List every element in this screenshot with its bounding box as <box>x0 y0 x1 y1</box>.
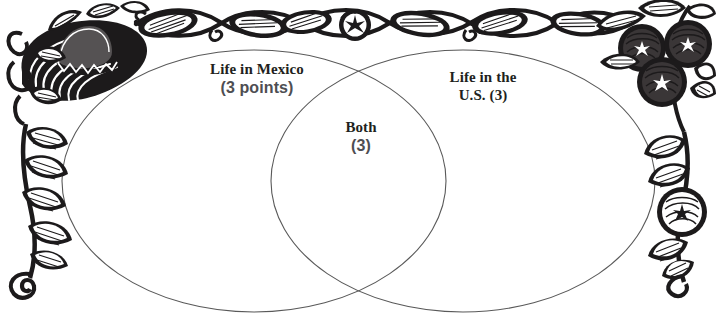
venn-intersection-label-points: (3) <box>305 136 417 156</box>
venn-right-label: Life in the U.S. (3) <box>390 68 576 105</box>
venn-right-label-title: Life in the <box>390 68 576 86</box>
venn-intersection-label: Both (3) <box>305 118 417 156</box>
worksheet-page: Life in Mexico (3 points) Life in the U.… <box>0 0 716 322</box>
venn-right-label-points: U.S. (3) <box>390 86 576 104</box>
venn-intersection-label-title: Both <box>305 118 417 136</box>
venn-left-label-points: (3 points) <box>142 78 372 98</box>
venn-diagram <box>0 0 716 322</box>
venn-left-label: Life in Mexico (3 points) <box>142 60 372 98</box>
venn-left-label-title: Life in Mexico <box>142 60 372 78</box>
